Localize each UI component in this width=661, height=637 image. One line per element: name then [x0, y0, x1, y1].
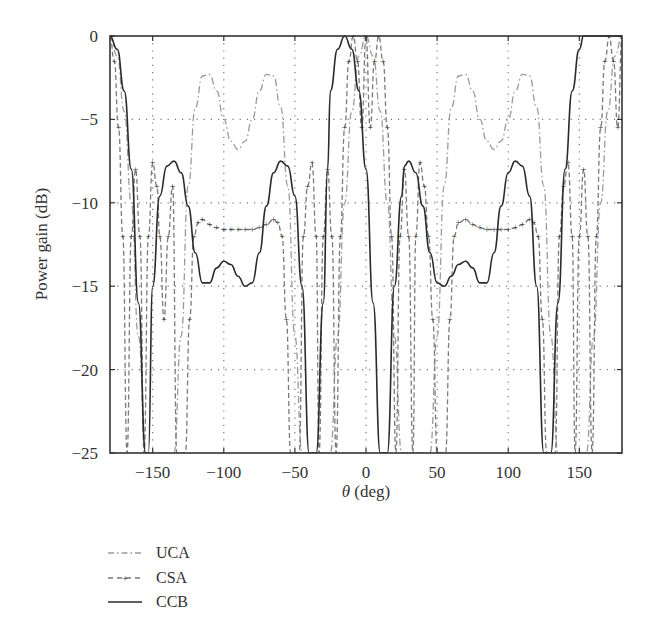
legend: UCA + CSA CCB: [108, 544, 190, 610]
x-tick-label: 100: [495, 463, 521, 482]
y-tick-label: −25: [71, 444, 98, 463]
csa-marker: +: [367, 122, 373, 133]
csa-marker: +: [513, 222, 519, 233]
legend-item-csa: + CSA: [108, 569, 188, 586]
csa-marker: +: [116, 122, 122, 133]
csa-marker: +: [447, 314, 453, 325]
legend-marker-plus: +: [122, 572, 128, 584]
csa-marker: +: [372, 56, 378, 67]
csa-marker: +: [611, 56, 617, 67]
csa-marker: +: [338, 231, 344, 242]
y-tick-label: −20: [71, 361, 98, 380]
y-tick-label: 0: [90, 27, 99, 46]
csa-marker: +: [170, 181, 176, 192]
csa-marker: +: [385, 122, 391, 133]
y-axis-label: Power gain (dB): [32, 188, 51, 300]
csa-marker: +: [594, 231, 600, 242]
x-tick-label: 0: [362, 463, 371, 482]
csa-marker: +: [413, 231, 419, 242]
csa-marker: +: [505, 224, 511, 235]
csa-marker: +: [598, 122, 604, 133]
csa-marker: +: [187, 314, 193, 325]
csa-marker: +: [380, 56, 386, 67]
csa-marker: +: [249, 224, 255, 235]
csa-marker: +: [165, 231, 171, 242]
y-tick-labels: 0−5−10−15−20−25: [71, 27, 98, 463]
csa-marker: +: [540, 314, 546, 325]
csa-marker: +: [129, 231, 135, 242]
csa-marker: +: [207, 219, 213, 230]
csa-marker: +: [264, 219, 270, 230]
y-tick-label: −15: [71, 277, 98, 296]
csa-marker: +: [150, 157, 156, 168]
x-axis-symbol: θ: [342, 482, 350, 501]
legend-item-ccb: CCB: [108, 593, 188, 610]
csa-marker: +: [228, 224, 234, 235]
csa-marker: +: [214, 222, 220, 233]
csa-marker: +: [309, 157, 315, 168]
csa-marker: +: [451, 231, 457, 242]
csa-marker: +: [484, 224, 490, 235]
x-tick-label: 150: [567, 463, 593, 482]
csa-marker: +: [346, 56, 352, 67]
csa-marker: +: [235, 224, 241, 235]
x-tick-labels: −150−100−50050100150: [135, 463, 592, 482]
csa-marker: +: [581, 164, 587, 175]
csa-marker: +: [275, 217, 281, 228]
csa-marker: +: [329, 231, 335, 242]
csa-marker: +: [157, 231, 163, 242]
csa-marker: +: [389, 231, 395, 242]
csa-marker: +: [279, 231, 285, 242]
csa-marker: +: [456, 217, 462, 228]
csa-marker: +: [498, 224, 504, 235]
csa-marker: +: [406, 231, 412, 242]
csa-marker: +: [137, 231, 143, 242]
csa-marker: +: [430, 314, 436, 325]
power-gain-chart: ++++++++++++++++++++++++++++++++++++++++…: [0, 0, 661, 637]
csa-marker: +: [491, 224, 497, 235]
csa-marker: +: [421, 181, 427, 192]
csa-marker: +: [200, 214, 206, 225]
csa-marker: +: [470, 219, 476, 230]
x-tick-label: 50: [429, 463, 446, 482]
csa-marker: +: [133, 164, 139, 175]
csa-marker: +: [313, 231, 319, 242]
csa-marker: +: [463, 214, 469, 225]
x-tick-label: −150: [135, 463, 170, 482]
csa-marker: +: [284, 314, 290, 325]
csa-marker: +: [146, 231, 152, 242]
legend-label-csa: CSA: [156, 569, 188, 586]
x-tick-label: −100: [206, 463, 241, 482]
csa-marker: +: [111, 56, 117, 67]
y-tick-label: −10: [71, 194, 98, 213]
csa-marker: +: [301, 231, 307, 242]
csa-marker: +: [342, 122, 348, 133]
csa-marker: +: [154, 181, 160, 192]
legend-label-ccb: CCB: [156, 593, 188, 610]
csa-marker: +: [535, 231, 541, 242]
x-tick-label: −50: [282, 463, 309, 482]
csa-marker: +: [305, 181, 311, 192]
legend-item-uca: UCA: [108, 544, 190, 561]
y-tick-label: −5: [80, 110, 98, 129]
csa-marker: +: [520, 219, 526, 230]
csa-marker: +: [417, 157, 423, 168]
csa-marker: +: [120, 231, 126, 242]
csa-marker: +: [257, 222, 263, 233]
csa-marker: +: [242, 224, 248, 235]
csa-marker: +: [161, 314, 167, 325]
csa-marker: +: [585, 231, 591, 242]
csa-marker: +: [577, 231, 583, 242]
csa-marker: +: [477, 222, 483, 233]
csa-marker: +: [569, 231, 575, 242]
csa-marker: +: [615, 122, 621, 133]
series-csa-line: [110, 36, 622, 453]
x-axis-label: θ (deg): [342, 482, 390, 501]
legend-label-uca: UCA: [156, 544, 190, 561]
csa-marker: +: [602, 56, 608, 67]
csa-marker: +: [221, 224, 227, 235]
x-axis-unit: (deg): [350, 482, 390, 501]
figure: ++++++++++++++++++++++++++++++++++++++++…: [0, 0, 661, 637]
